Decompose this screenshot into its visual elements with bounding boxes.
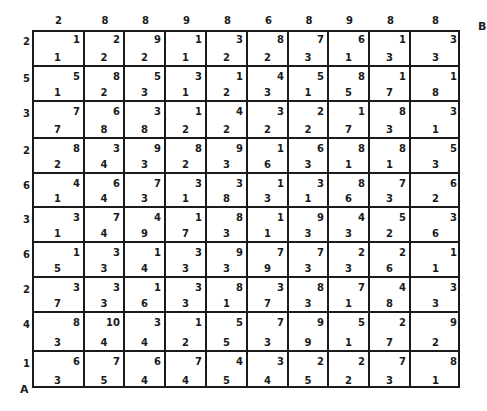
grid-cell[interactable]: 33 bbox=[85, 278, 125, 313]
grid-cell[interactable]: 104 bbox=[85, 313, 125, 352]
grid-cell[interactable]: 82 bbox=[32, 139, 85, 174]
grid-cell[interactable]: 13 bbox=[370, 30, 411, 67]
grid-cell[interactable]: 38 bbox=[207, 174, 248, 208]
grid-cell[interactable]: 62 bbox=[411, 174, 460, 208]
grid-cell[interactable]: 22 bbox=[289, 102, 329, 139]
grid-cell[interactable]: 23 bbox=[329, 243, 370, 278]
grid-cell[interactable]: 13 bbox=[248, 174, 289, 208]
grid-cell[interactable]: 22 bbox=[329, 352, 370, 388]
grid-cell[interactable]: 11 bbox=[411, 243, 460, 278]
grid-cell[interactable]: 81 bbox=[370, 139, 411, 174]
grid-cell[interactable]: 31 bbox=[166, 174, 207, 208]
grid-cell[interactable]: 12 bbox=[166, 102, 207, 139]
grid-cell[interactable]: 77 bbox=[32, 102, 85, 139]
grid-cell[interactable]: 48 bbox=[370, 278, 411, 313]
grid-cell[interactable]: 33 bbox=[411, 30, 460, 67]
grid-cell[interactable]: 38 bbox=[125, 102, 166, 139]
grid-cell[interactable]: 18 bbox=[411, 67, 460, 102]
grid-cell[interactable]: 37 bbox=[248, 278, 289, 313]
grid-cell[interactable]: 12 bbox=[207, 67, 248, 102]
grid-cell[interactable]: 25 bbox=[289, 352, 329, 388]
grid-cell[interactable]: 32 bbox=[248, 102, 289, 139]
grid-cell[interactable]: 45 bbox=[207, 352, 248, 388]
grid-cell[interactable]: 51 bbox=[32, 67, 85, 102]
grid-cell[interactable]: 11 bbox=[166, 30, 207, 67]
grid-cell[interactable]: 92 bbox=[411, 313, 460, 352]
grid-cell[interactable]: 93 bbox=[125, 139, 166, 174]
grid-cell[interactable]: 33 bbox=[166, 243, 207, 278]
grid-cell[interactable]: 34 bbox=[85, 139, 125, 174]
grid-cell[interactable]: 11 bbox=[32, 30, 85, 67]
grid-cell[interactable]: 16 bbox=[125, 278, 166, 313]
grid-cell[interactable]: 82 bbox=[248, 30, 289, 67]
grid-cell[interactable]: 83 bbox=[207, 208, 248, 243]
grid-cell[interactable]: 83 bbox=[32, 313, 85, 352]
grid-cell[interactable]: 63 bbox=[289, 139, 329, 174]
grid-cell[interactable]: 93 bbox=[207, 243, 248, 278]
grid-cell[interactable]: 73 bbox=[289, 243, 329, 278]
grid-cell[interactable]: 53 bbox=[411, 139, 460, 174]
grid-cell[interactable]: 73 bbox=[248, 313, 289, 352]
grid-cell[interactable]: 81 bbox=[207, 278, 248, 313]
grid-cell[interactable]: 93 bbox=[289, 208, 329, 243]
grid-cell[interactable]: 83 bbox=[370, 102, 411, 139]
grid-cell[interactable]: 64 bbox=[85, 174, 125, 208]
grid-cell[interactable]: 34 bbox=[125, 313, 166, 352]
grid-cell[interactable]: 17 bbox=[329, 102, 370, 139]
grid-cell[interactable]: 85 bbox=[329, 67, 370, 102]
grid-cell[interactable]: 81 bbox=[329, 139, 370, 174]
grid-cell[interactable]: 43 bbox=[248, 67, 289, 102]
grid-cell[interactable]: 17 bbox=[166, 208, 207, 243]
grid-cell[interactable]: 64 bbox=[125, 352, 166, 388]
grid-cell[interactable]: 99 bbox=[289, 313, 329, 352]
grid-cell[interactable]: 81 bbox=[411, 352, 460, 388]
grid-cell[interactable]: 53 bbox=[125, 67, 166, 102]
grid-cell[interactable]: 73 bbox=[370, 174, 411, 208]
grid-cell[interactable]: 74 bbox=[166, 352, 207, 388]
grid-cell[interactable]: 33 bbox=[411, 278, 460, 313]
grid-cell[interactable]: 37 bbox=[32, 278, 85, 313]
grid-cell[interactable]: 31 bbox=[289, 174, 329, 208]
grid-cell[interactable]: 86 bbox=[329, 174, 370, 208]
grid-cell[interactable]: 43 bbox=[329, 208, 370, 243]
grid-cell[interactable]: 32 bbox=[207, 30, 248, 67]
grid-cell[interactable]: 33 bbox=[166, 278, 207, 313]
grid-cell[interactable]: 42 bbox=[207, 102, 248, 139]
grid-cell[interactable]: 75 bbox=[85, 352, 125, 388]
grid-cell[interactable]: 92 bbox=[125, 30, 166, 67]
grid-cell[interactable]: 31 bbox=[166, 67, 207, 102]
grid-cell[interactable]: 14 bbox=[125, 243, 166, 278]
grid-cell[interactable]: 51 bbox=[289, 67, 329, 102]
grid-cell[interactable]: 22 bbox=[85, 30, 125, 67]
grid-cell[interactable]: 49 bbox=[125, 208, 166, 243]
grid-cell[interactable]: 93 bbox=[207, 139, 248, 174]
grid-cell[interactable]: 73 bbox=[370, 352, 411, 388]
grid-cell[interactable]: 36 bbox=[411, 208, 460, 243]
grid-cell[interactable]: 27 bbox=[370, 313, 411, 352]
grid-cell[interactable]: 33 bbox=[85, 243, 125, 278]
grid-cell[interactable]: 71 bbox=[329, 278, 370, 313]
grid-cell[interactable]: 16 bbox=[248, 139, 289, 174]
grid-cell[interactable]: 79 bbox=[248, 243, 289, 278]
grid-cell[interactable]: 73 bbox=[289, 30, 329, 67]
grid-cell[interactable]: 61 bbox=[329, 30, 370, 67]
grid-cell[interactable]: 26 bbox=[370, 243, 411, 278]
grid-cell[interactable]: 82 bbox=[166, 139, 207, 174]
grid-cell[interactable]: 74 bbox=[85, 208, 125, 243]
grid-cell[interactable]: 31 bbox=[32, 208, 85, 243]
grid-cell[interactable]: 68 bbox=[85, 102, 125, 139]
grid-cell[interactable]: 52 bbox=[370, 208, 411, 243]
grid-cell[interactable]: 17 bbox=[370, 67, 411, 102]
grid-cell[interactable]: 31 bbox=[411, 102, 460, 139]
grid-cell[interactable]: 11 bbox=[248, 208, 289, 243]
grid-cell[interactable]: 41 bbox=[32, 174, 85, 208]
grid-cell[interactable]: 73 bbox=[125, 174, 166, 208]
grid-cell[interactable]: 15 bbox=[32, 243, 85, 278]
grid-cell[interactable]: 34 bbox=[248, 352, 289, 388]
grid-cell[interactable]: 83 bbox=[289, 278, 329, 313]
grid-cell[interactable]: 82 bbox=[85, 67, 125, 102]
grid-cell[interactable]: 55 bbox=[207, 313, 248, 352]
grid-cell[interactable]: 51 bbox=[329, 313, 370, 352]
grid-cell[interactable]: 12 bbox=[166, 313, 207, 352]
grid-cell[interactable]: 63 bbox=[32, 352, 85, 388]
